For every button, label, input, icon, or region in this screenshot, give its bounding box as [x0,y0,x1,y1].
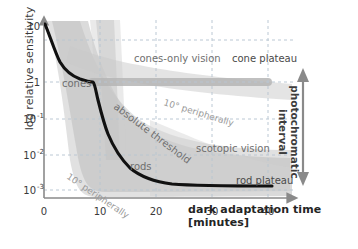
annotation-cones-only-vision: cones-only vision [134,53,221,64]
annotation-cones: cones [62,78,91,89]
svg-text:20: 20 [150,206,163,217]
svg-text:10: 10 [23,185,36,196]
svg-text:10: 10 [94,206,107,217]
svg-text:-2: -2 [37,148,44,156]
dark-adaptation-chart: log relative sensitivity dark adaptation… [0,0,358,249]
y-axis-title: log relative sensitivity [23,4,36,134]
svg-text:-1: -1 [37,112,44,120]
annotation-rods: rods [130,161,152,172]
svg-text:10: 10 [23,150,36,161]
x-axis-title: dark adaptation time [minutes] [188,203,358,229]
svg-text:0: 0 [41,206,47,217]
annotation-cone-plateau: cone plateau [232,53,297,64]
annotation-scotopic-vision: scotopic vision [196,143,270,154]
svg-text:-3: -3 [37,183,44,191]
photochromatic-interval-label: photochromatic interval [277,84,300,180]
